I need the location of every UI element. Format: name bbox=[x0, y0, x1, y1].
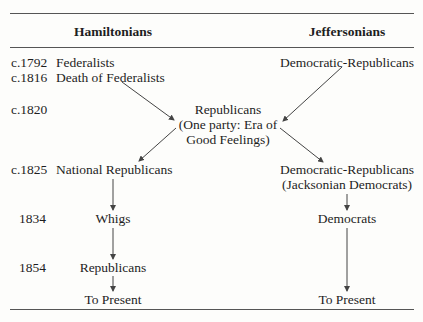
arrow-federalists-to-era bbox=[122, 82, 174, 120]
arrow-era-to-national-republicans bbox=[139, 128, 176, 161]
arrow-era-to-demrep-1825 bbox=[280, 128, 323, 162]
arrows-layer bbox=[0, 0, 423, 322]
arrow-demrep-to-era bbox=[283, 67, 342, 121]
